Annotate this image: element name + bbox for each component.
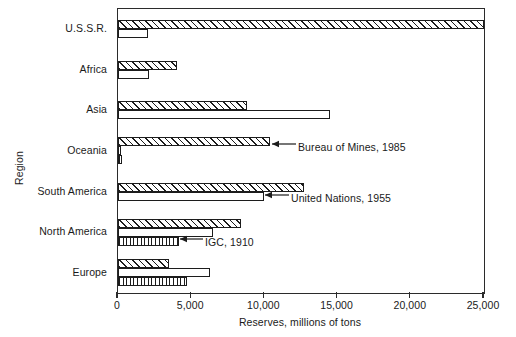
annotation-bureau-of-mines-1985: Bureau of Mines, 1985 bbox=[298, 141, 406, 153]
x-axis-title: Reserves, millions of tons bbox=[117, 316, 483, 328]
annotation-igc-1910: IGC, 1910 bbox=[205, 236, 254, 248]
x-tick-mark bbox=[190, 292, 191, 298]
bar bbox=[118, 137, 270, 146]
x-tick-mark bbox=[409, 292, 410, 298]
bar bbox=[118, 192, 264, 201]
category-label-asia: Asia bbox=[86, 103, 107, 115]
bar bbox=[118, 101, 247, 110]
bar-group bbox=[118, 90, 484, 131]
bar-group bbox=[118, 212, 484, 253]
x-tick-label-5000: 5,000 bbox=[177, 299, 204, 311]
bar bbox=[118, 277, 187, 286]
category-axis-labels: U.S.S.R. Africa Asia Oceania South Ameri… bbox=[0, 8, 112, 292]
category-label-ussr: U.S.S.R. bbox=[65, 22, 107, 34]
x-tick-mark bbox=[263, 292, 264, 298]
bar-group bbox=[118, 50, 484, 91]
bar bbox=[118, 237, 179, 246]
bar bbox=[118, 61, 177, 70]
bar-group bbox=[118, 252, 484, 293]
bar bbox=[118, 183, 304, 192]
category-label-africa: Africa bbox=[80, 63, 107, 75]
x-tick-mark bbox=[116, 292, 117, 298]
x-tick-label-15000: 15,000 bbox=[320, 299, 353, 311]
bar bbox=[118, 146, 121, 155]
x-tick-label-0: 0 bbox=[114, 299, 120, 311]
category-label-europe: Europe bbox=[73, 266, 107, 278]
category-label-north-america: North America bbox=[39, 225, 107, 237]
bar bbox=[118, 70, 149, 79]
category-label-south-america: South America bbox=[37, 185, 107, 197]
bar-group bbox=[118, 9, 484, 50]
x-tick-mark bbox=[336, 292, 337, 298]
category-label-oceania: Oceania bbox=[67, 144, 107, 156]
x-tick-mark bbox=[482, 292, 483, 298]
x-tick-label-25000: 25,000 bbox=[467, 299, 500, 311]
bar bbox=[118, 155, 122, 164]
x-axis-tick-labels: 0 5,000 10,000 15,000 20,000 25,000 bbox=[117, 299, 483, 315]
bar bbox=[118, 228, 213, 237]
bar bbox=[118, 219, 241, 228]
bar-chart-figure: Region U.S.S.R. Africa Asia Oceania Sout… bbox=[0, 0, 516, 337]
bar bbox=[118, 110, 330, 119]
x-tick-label-10000: 10,000 bbox=[247, 299, 280, 311]
bar bbox=[118, 268, 210, 277]
bar bbox=[118, 259, 169, 268]
annotation-united-nations-1955: United Nations, 1955 bbox=[291, 192, 391, 204]
x-tick-label-20000: 20,000 bbox=[393, 299, 426, 311]
bar bbox=[118, 20, 484, 29]
bar bbox=[118, 29, 148, 38]
